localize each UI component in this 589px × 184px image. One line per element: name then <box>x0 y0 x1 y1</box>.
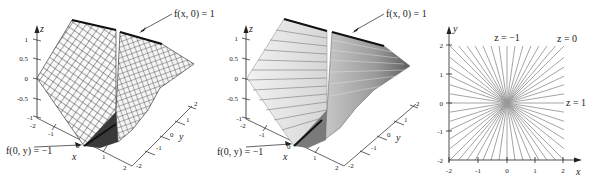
x-axis-label: x <box>575 166 581 177</box>
svg-text:0.5: 0.5 <box>19 55 28 63</box>
x-axis-label: x <box>282 151 288 162</box>
svg-text:-2: -2 <box>348 162 354 170</box>
annotation-fx0: f(x, 0) = 1 <box>174 8 215 20</box>
y-axis-label: y <box>452 23 458 34</box>
z-axis-arrow-icon <box>35 25 40 33</box>
annotation-z-neg1: z = −1 <box>494 32 520 43</box>
svg-text:-0.5: -0.5 <box>227 95 239 103</box>
svg-text:-2: -2 <box>437 157 443 165</box>
wireframe-panel: z 1 0.5 0 -0.5 -1 -2 -1 0 1 2 x -2 <box>6 8 215 172</box>
svg-text:1: 1 <box>533 167 537 175</box>
z-ticks: 1 0.5 0 -0.5 -1 <box>227 35 250 123</box>
svg-text:2: 2 <box>416 100 420 108</box>
y-axis-label: y <box>395 132 401 143</box>
surface-right-face <box>324 32 410 140</box>
svg-text:0: 0 <box>235 75 239 83</box>
x-axis-label: x <box>71 151 77 162</box>
svg-text:-1: -1 <box>437 128 443 136</box>
svg-text:2: 2 <box>123 164 127 172</box>
svg-text:-1: -1 <box>475 167 481 175</box>
svg-text:0.5: 0.5 <box>229 55 238 63</box>
y-axis-arrow-icon <box>447 26 452 34</box>
arrow-icon <box>139 27 146 33</box>
svg-text:1: 1 <box>313 154 317 162</box>
svg-text:1: 1 <box>235 35 239 43</box>
svg-text:0: 0 <box>505 167 509 175</box>
svg-text:0: 0 <box>440 100 444 108</box>
svg-text:2: 2 <box>440 42 444 50</box>
annotation-f0y: f(0, y) = −1 <box>217 146 263 158</box>
y-ticks: -2 -1 0 1 2 y <box>348 100 420 170</box>
y-axis <box>344 104 416 166</box>
svg-text:-2: -2 <box>136 162 142 170</box>
svg-text:-1: -1 <box>259 131 265 139</box>
z-axis-label: z <box>39 23 44 34</box>
x-axis-arrow-icon <box>574 158 582 163</box>
svg-text:-1: -1 <box>48 130 54 138</box>
svg-text:2: 2 <box>561 167 565 175</box>
figure-canvas: z 1 0.5 0 -0.5 -1 -2 -1 0 1 2 x -2 <box>0 0 589 184</box>
svg-text:1: 1 <box>102 153 106 161</box>
svg-text:1: 1 <box>404 116 408 124</box>
svg-text:0: 0 <box>170 131 174 139</box>
y-axis-label: y <box>178 131 184 142</box>
svg-text:2: 2 <box>335 164 339 172</box>
annotation-z-1: z = 1 <box>566 97 586 108</box>
z-axis-label: z <box>248 23 253 34</box>
shaded-panel: z 1 0.5 0 -0.5 -1 -2 -1 0 1 2 x -2 <box>217 8 427 172</box>
annotation-fx0: f(x, 0) = 1 <box>386 8 427 20</box>
svg-text:0: 0 <box>25 75 29 83</box>
contour-lines <box>450 46 564 160</box>
svg-text:0: 0 <box>387 131 391 139</box>
svg-text:1: 1 <box>25 36 29 44</box>
annotation-f0y: f(0, y) = −1 <box>6 145 52 157</box>
arrow-icon <box>352 27 359 33</box>
svg-text:-0.5: -0.5 <box>17 95 29 103</box>
svg-text:-2: -2 <box>446 167 452 175</box>
svg-text:-2: -2 <box>30 122 36 130</box>
svg-text:-2: -2 <box>240 122 246 130</box>
y-tick-labels: 2 1 0 -1 -2 <box>437 42 443 165</box>
contour-panel: y x -2 -1 0 1 2 2 1 0 -1 -2 z = −1 <box>437 23 589 177</box>
svg-text:-1: -1 <box>27 114 33 122</box>
svg-text:-1: -1 <box>371 144 377 152</box>
svg-text:1: 1 <box>186 116 190 124</box>
svg-text:-1: -1 <box>156 144 162 152</box>
z-axis-arrow-icon <box>244 25 249 33</box>
annotation-z-0: z = 0 <box>557 33 577 44</box>
svg-text:2: 2 <box>194 100 198 108</box>
svg-text:1: 1 <box>440 71 444 79</box>
x-tick-labels: -2 -1 0 1 2 <box>446 167 565 175</box>
